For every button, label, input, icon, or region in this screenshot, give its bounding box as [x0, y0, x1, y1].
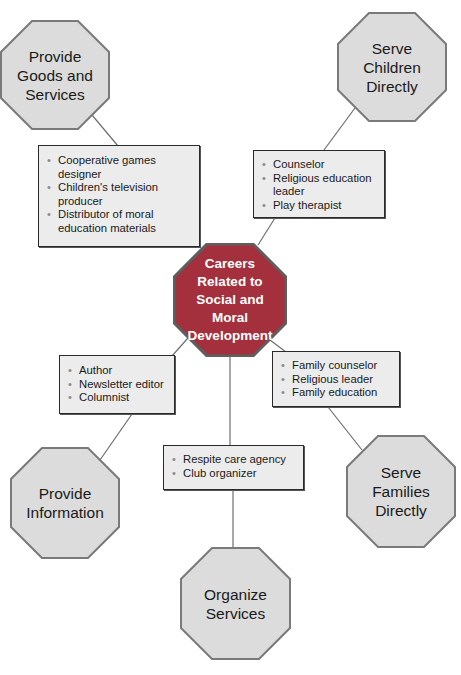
category-label: Provide Goods and Services	[0, 20, 110, 130]
career-item: Club organizer	[170, 467, 297, 481]
career-item: Family education	[279, 386, 393, 400]
career-list-goods-services: Cooperative games designer Children's te…	[38, 145, 200, 247]
category-label: Organize Services	[180, 547, 291, 660]
center-node: Careers Related to Social and Moral Deve…	[173, 243, 287, 357]
category-label: Serve Children Directly	[337, 12, 447, 122]
career-item: Newsletter editor	[66, 378, 168, 392]
career-item: Counselor	[260, 158, 378, 172]
connector-children-box-to-center	[258, 218, 275, 245]
career-item: Cooperative games designer	[45, 154, 193, 181]
category-label: Provide Information	[10, 447, 120, 559]
center-label: Careers Related to Social and Moral Deve…	[173, 243, 287, 357]
career-item: Children's television producer	[45, 181, 193, 208]
category-node-organize-services: Organize Services	[180, 547, 291, 660]
career-item: Religious leader	[279, 373, 393, 387]
career-item: Columnist	[66, 391, 168, 405]
category-node-provide-information: Provide Information	[10, 447, 120, 559]
career-item: Distributor of moral education materials	[45, 208, 193, 235]
category-node-serve-families: Serve Families Directly	[346, 435, 456, 548]
category-node-goods-services: Provide Goods and Services	[0, 20, 110, 130]
career-item: Play therapist	[260, 199, 378, 213]
career-item: Family counselor	[279, 359, 393, 373]
category-node-serve-children: Serve Children Directly	[337, 12, 447, 122]
career-list-serve-families: Family counselor Religious leader Family…	[272, 351, 400, 407]
career-item: Author	[66, 364, 168, 378]
career-list-organize-services: Respite care agency Club organizer	[163, 445, 304, 490]
career-list-provide-information: Author Newsletter editor Columnist	[59, 355, 175, 414]
category-label: Serve Families Directly	[346, 435, 456, 548]
career-item: Religious education leader	[260, 172, 378, 199]
career-list-serve-children: Counselor Religious education leader Pla…	[253, 150, 385, 218]
career-item: Respite care agency	[170, 453, 297, 467]
